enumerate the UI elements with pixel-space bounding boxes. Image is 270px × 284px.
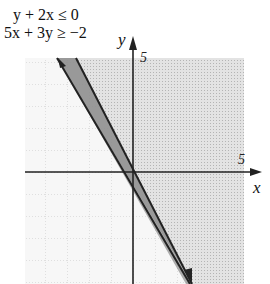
x-axis-arrow-icon — [250, 168, 262, 176]
y-axis-label: y — [118, 30, 126, 50]
x-axis-label: x — [253, 178, 261, 198]
y-axis-arrow-icon — [129, 36, 137, 50]
coordinate-graph — [0, 0, 270, 284]
x-tick-label: 5 — [238, 152, 245, 168]
y-tick-label: 5 — [140, 50, 147, 66]
